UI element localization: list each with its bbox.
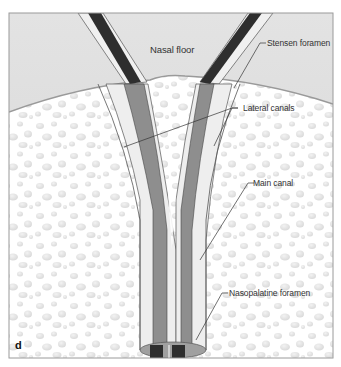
nasopalatine-canal-diagram: Nasal floor Stensen foramen Lateral cana… <box>0 0 341 367</box>
panel-letter: d <box>15 339 22 351</box>
main-canal-label: Main canal <box>253 178 293 188</box>
nasopalatine-foramen-label: Nasopalatine foramen <box>229 288 310 298</box>
stensen-foramen-label: Stensen foramen <box>267 38 330 48</box>
lateral-canals-label: Lateral canals <box>243 103 295 113</box>
nasal-floor-label: Nasal floor <box>150 44 194 55</box>
